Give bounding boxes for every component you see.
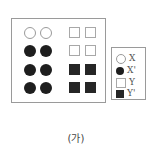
legend-label: X' xyxy=(127,66,136,75)
filled-circle-icon xyxy=(24,64,36,76)
legend: X X' Y Y' xyxy=(111,47,146,100)
legend-label: Y xyxy=(129,78,135,87)
filled-circle-icon xyxy=(40,45,52,57)
open-square-icon xyxy=(85,45,96,56)
open-circle-icon xyxy=(24,27,36,39)
open-circle-icon xyxy=(40,27,52,39)
filled-square-icon xyxy=(116,90,124,98)
open-circle-icon xyxy=(116,54,126,64)
legend-label: Y' xyxy=(127,89,135,98)
open-square-icon xyxy=(69,27,80,38)
open-square-icon xyxy=(85,27,96,38)
filled-circle-icon xyxy=(24,82,36,94)
filled-square-icon xyxy=(69,64,80,75)
diagram-panel xyxy=(11,18,106,103)
open-square-icon xyxy=(116,78,126,88)
filled-circle-icon xyxy=(40,64,52,76)
legend-label: X xyxy=(129,54,135,63)
filled-circle-icon xyxy=(116,67,124,75)
filled-circle-icon xyxy=(40,82,52,94)
filled-circle-icon xyxy=(24,45,36,57)
figure-caption: (가) xyxy=(0,130,152,145)
legend-item-x: X xyxy=(116,53,135,64)
filled-square-icon xyxy=(85,64,96,75)
legend-item-y-prime: Y' xyxy=(116,88,135,99)
legend-item-x-prime: X' xyxy=(116,65,136,76)
open-square-icon xyxy=(69,45,80,56)
legend-item-y: Y xyxy=(116,77,135,88)
filled-square-icon xyxy=(85,82,96,93)
filled-square-icon xyxy=(69,82,80,93)
